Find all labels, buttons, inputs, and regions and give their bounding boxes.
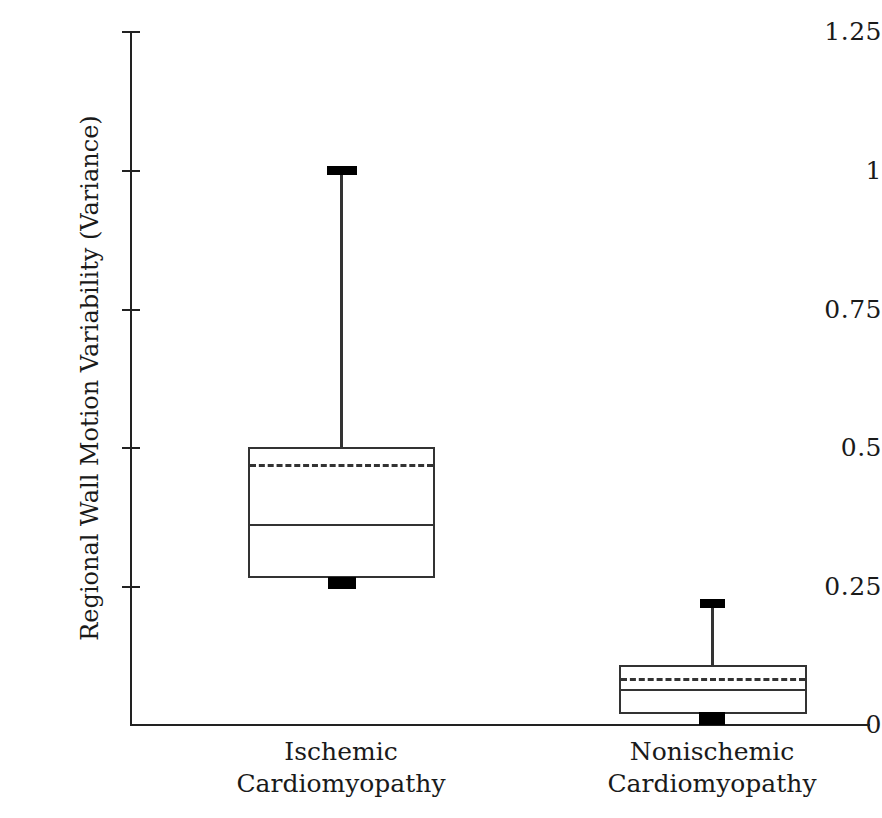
- lower-whisker-cap-nonischemic: [699, 712, 725, 725]
- x-category-label-nonischemic: Nonischemic Cardiomyopathy: [592, 736, 832, 800]
- median-line-nonischemic: [621, 689, 805, 691]
- x-category-label-nonischemic-line2: Cardiomyopathy: [592, 768, 832, 800]
- upper-whisker-cap-nonischemic: [700, 599, 725, 608]
- boxplot-figure: Regional Wall Motion Variability (Varian…: [0, 0, 882, 818]
- boxplot-series-nonischemic: [0, 0, 882, 818]
- x-category-label-ischemic-line2: Cardiomyopathy: [221, 768, 461, 800]
- x-category-label-ischemic-line1: Ischemic: [221, 736, 461, 768]
- x-category-label-ischemic: Ischemic Cardiomyopathy: [221, 736, 461, 800]
- upper-whisker-line-nonischemic: [711, 604, 714, 666]
- x-category-label-nonischemic-line1: Nonischemic: [592, 736, 832, 768]
- mean-line-nonischemic: [621, 678, 805, 681]
